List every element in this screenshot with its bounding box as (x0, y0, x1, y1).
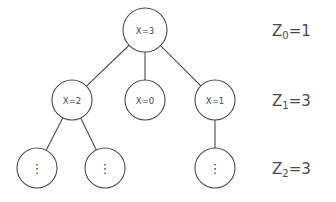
node-ellipsis-icon: ⋮ (31, 161, 44, 176)
tree-node[interactable]: X=1 (195, 80, 235, 120)
node-ellipsis-icon: ⋮ (99, 161, 112, 176)
tree-node[interactable]: X=0 (125, 80, 165, 120)
tree-edge (86, 45, 129, 86)
annotation-symbol: Z (272, 92, 282, 110)
level-2-count: Z2=3 (272, 160, 311, 179)
annotation-equals: = (289, 160, 302, 178)
tree-node[interactable]: ⋮ (85, 148, 125, 188)
tree-edge (81, 118, 97, 150)
node-ellipsis-icon: ⋮ (209, 161, 222, 176)
node-label: X=0 (136, 96, 154, 106)
node-label: X=2 (63, 96, 81, 106)
node-label: X=1 (206, 96, 224, 106)
tree-edge (46, 118, 63, 150)
tree-node[interactable]: ⋮ (17, 148, 57, 188)
level-1-count: Z1=3 (272, 92, 311, 111)
annotation-symbol: Z (272, 22, 282, 40)
node-label: X=3 (136, 26, 154, 36)
annotation-symbol: Z (272, 160, 282, 178)
nodes-group: X=3X=2X=0X=1⋮⋮⋮ (17, 8, 235, 188)
tree-edge (161, 46, 201, 86)
annotation-equals: = (289, 92, 302, 110)
tree-node[interactable]: X=2 (52, 80, 92, 120)
tree-node[interactable]: X=3 (123, 8, 167, 52)
level-0-count: Z0=1 (272, 22, 311, 41)
tree-node[interactable]: ⋮ (195, 148, 235, 188)
annotation-value: 3 (301, 160, 311, 178)
annotation-value: 1 (301, 22, 311, 40)
annotation-value: 3 (301, 92, 311, 110)
annotation-equals: = (289, 22, 302, 40)
tree-diagram-figure: X=3X=2X=0X=1⋮⋮⋮ Z0=1Z1=3Z2=3 (0, 0, 336, 202)
